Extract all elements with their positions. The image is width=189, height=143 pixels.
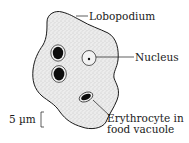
cell-body	[33, 11, 119, 128]
scale-bar-label: 5 µm	[9, 114, 36, 124]
label-lobopodium: Lobopodium	[89, 11, 155, 21]
scale-bar	[41, 112, 44, 127]
inclusion-2	[54, 68, 65, 81]
label-nucleus: Nucleus	[135, 52, 179, 62]
karyosome	[88, 58, 90, 60]
label-erythrocyte-line2: food vacuole	[107, 124, 174, 134]
label-erythrocyte-line1: Erythrocyte in	[107, 113, 184, 123]
inclusion-1	[53, 47, 63, 59]
